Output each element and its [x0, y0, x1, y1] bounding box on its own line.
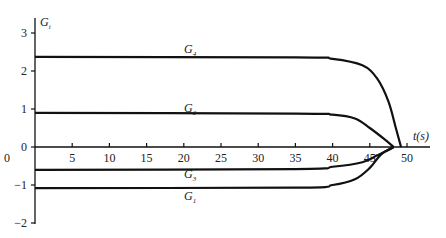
- series-label-g2: G2: [184, 101, 197, 117]
- series-label-g4: G4: [184, 42, 197, 58]
- y-tick-label: −2: [14, 216, 27, 230]
- x-tick-label: 35: [289, 151, 301, 165]
- origin-x-label: 0: [4, 151, 10, 165]
- axes: [35, 18, 430, 224]
- chart: 3210−1−2 5101520253035404550 Gi t(s) 0 G…: [0, 0, 446, 238]
- series-lines: [35, 57, 401, 188]
- x-tick-label: 30: [252, 151, 264, 165]
- series-label-g1: G1: [184, 189, 196, 205]
- x-tick-label: 10: [103, 151, 115, 165]
- x-tick-label: 20: [178, 151, 190, 165]
- y-tick-label: 1: [21, 102, 27, 116]
- x-tick-label: 25: [215, 151, 227, 165]
- x-tick-label: 40: [327, 151, 339, 165]
- series-line-g4: [35, 57, 401, 147]
- x-axis-label: t(s): [413, 129, 429, 143]
- series-line-g2: [35, 113, 394, 147]
- y-tick-label: 3: [21, 26, 27, 40]
- x-tick-label: 5: [69, 151, 75, 165]
- y-axis-label: Gi: [40, 15, 51, 31]
- y-tick-label: −1: [14, 178, 27, 192]
- y-tick-label: 0: [21, 140, 27, 154]
- y-ticks: 3210−1−2: [14, 26, 35, 230]
- y-tick-label: 2: [21, 64, 27, 78]
- x-tick-label: 50: [401, 151, 413, 165]
- x-tick-label: 15: [141, 151, 153, 165]
